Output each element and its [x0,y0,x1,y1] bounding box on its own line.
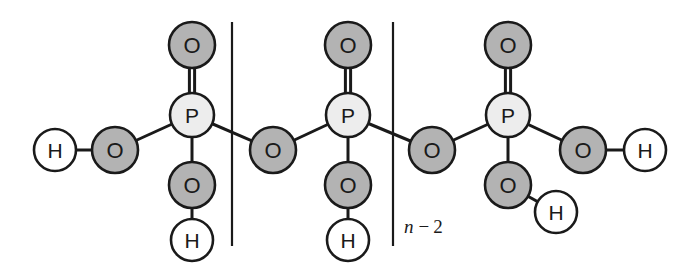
atom-label-o-lower-unit-1: O [183,173,200,198]
atom-label-o-lower-unit-3: O [499,173,516,198]
atom-o-left-hydroxyl: O [92,127,138,173]
atom-h-right-terminal: H [624,129,666,171]
repeat-variable: n [404,216,414,237]
atom-o-lower-unit-3: O [485,162,531,208]
atom-p-unit-3: P [486,93,530,137]
atom-o-lower-unit-1: O [169,162,215,208]
atom-label-p-unit-3: P [501,104,515,127]
atom-o-bridge-1: O [250,127,296,173]
chemical-structure-figure: HOPOOHOPOOHOPOOHOH n−2 [0,0,692,266]
atom-label-o-bridge-2: O [423,138,440,163]
atom-label-o-lower-unit-2: O [339,173,356,198]
atom-o-bridge-2: O [409,127,455,173]
atom-label-p-unit-1: P [185,104,199,127]
atom-p-unit-2: P [326,93,370,137]
atom-label-o-left-hydroxyl: O [106,138,123,163]
atom-label-h-lower-unit-3: H [548,201,563,224]
atom-h-lower-unit-2: H [327,219,369,261]
atom-o-right-hydroxyl: O [560,127,606,173]
atom-o-double-unit-2: O [325,22,371,68]
atom-label-h-right-terminal: H [637,139,652,162]
structure-diagram: HOPOOHOPOOHOPOOHOH n−2 [0,0,692,266]
atom-h-lower-unit-1: H [171,219,213,261]
repeat-count: 2 [433,216,443,237]
atom-p-unit-1: P [170,93,214,137]
atom-label-o-right-hydroxyl: O [574,138,591,163]
repeat-unit-label: n−2 [404,216,443,237]
atom-o-double-unit-1: O [169,22,215,68]
repeat-operator: − [419,216,430,237]
atom-label-h-lower-unit-2: H [340,229,355,252]
atom-label-h-lower-unit-1: H [184,229,199,252]
atom-h-lower-unit-3: H [535,191,577,233]
atom-label-o-double-unit-2: O [339,33,356,58]
atom-h-left-terminal: H [34,129,76,171]
atom-o-double-unit-3: O [485,22,531,68]
atom-o-lower-unit-2: O [325,162,371,208]
atom-label-o-double-unit-1: O [183,33,200,58]
atom-label-o-bridge-1: O [264,138,281,163]
atom-label-h-left-terminal: H [47,139,62,162]
atom-label-p-unit-2: P [341,104,355,127]
atom-label-o-double-unit-3: O [499,33,516,58]
